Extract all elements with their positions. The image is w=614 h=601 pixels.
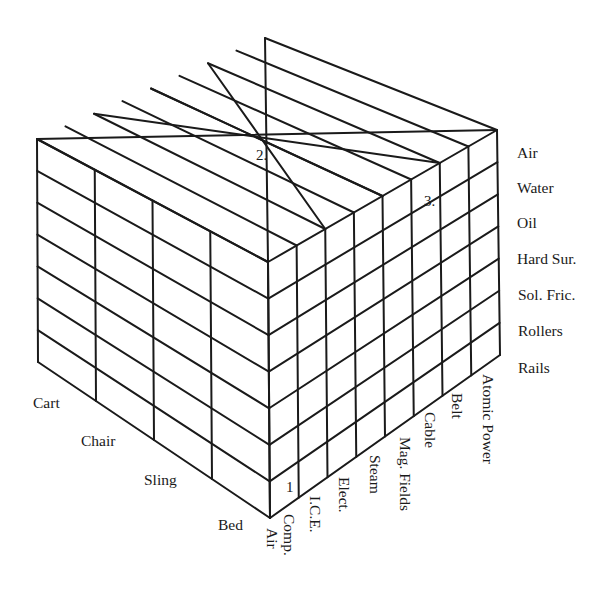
label-air-comp: Air (264, 528, 281, 550)
grid-line (325, 229, 327, 477)
grid-line (411, 180, 414, 417)
grid-line (123, 101, 354, 212)
label-cable: Cable (422, 412, 439, 448)
label-rollers: Rollers (518, 322, 563, 339)
label-mag-fields: Mag. Fields (397, 437, 414, 511)
grid-line (468, 147, 471, 376)
grid-line (497, 130, 500, 355)
label-steam: Steam (367, 455, 384, 494)
label-hard-surface: Hard Sur. (517, 250, 576, 267)
grid-line (383, 196, 386, 437)
grid-line (180, 76, 412, 180)
label-sling: Sling (144, 471, 177, 488)
label-atomic-power: Atomic Power (480, 374, 497, 465)
label-comp: Comp. (281, 514, 298, 556)
marker-3: 3. (424, 193, 435, 209)
label-bed: Bed (218, 516, 243, 533)
label-ice: I.C.E. (307, 496, 324, 533)
grid-line (297, 246, 299, 498)
morphological-cube-diagram: Air Water Oil Hard Sur. Sol. Fric. Rolle… (0, 0, 614, 601)
label-belt: Belt (449, 393, 466, 420)
label-rails: Rails (518, 359, 550, 376)
label-elect: Elect. (336, 477, 353, 513)
grid-line (37, 139, 38, 362)
marker-1: 1 (286, 479, 294, 495)
label-solid-friction: Sol. Fric. (518, 286, 575, 303)
label-water: Water (517, 179, 554, 196)
grid-line (440, 163, 443, 396)
grid-line (66, 126, 297, 245)
label-chair: Chair (81, 432, 116, 449)
support-medium-labels: Air Water Oil Hard Sur. Sol. Fric. Rolle… (517, 144, 576, 376)
label-air: Air (517, 144, 539, 161)
label-oil: Oil (517, 214, 537, 231)
grid-line (354, 213, 356, 457)
label-cart: Cart (33, 394, 60, 411)
marker-2: 2. (256, 147, 267, 163)
grid-line (265, 38, 497, 130)
